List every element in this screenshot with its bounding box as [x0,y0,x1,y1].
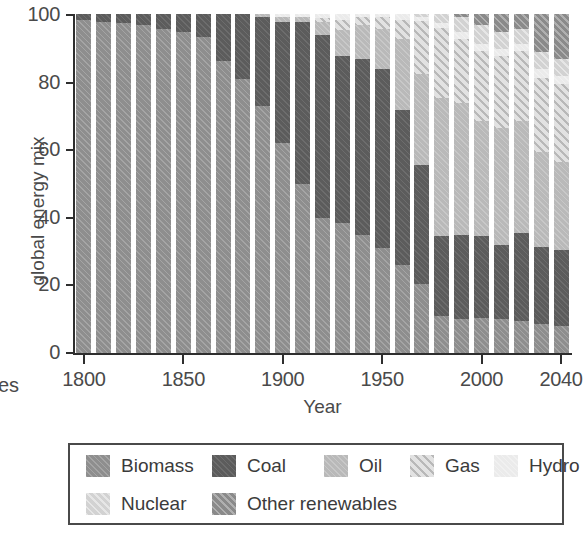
legend-swatch-icon [86,455,110,477]
bar-segment [454,16,469,32]
stacked-bar [116,15,131,353]
bar-segment [255,16,270,106]
bar-segment [554,325,569,353]
y-tick-label: 100 [14,4,60,24]
bar-segment [514,28,529,44]
legend-label: Coal [247,455,286,477]
bar-segment [474,317,489,353]
stacked-bar [414,15,429,353]
bar-segment [355,16,370,25]
bar-segment [275,14,290,16]
bar-segment [395,38,410,110]
stacked-bar [156,15,171,353]
bar-segment [375,28,390,69]
legend-item[interactable]: Gas [410,449,480,483]
plot-area [74,15,571,353]
bar-segment [534,68,549,77]
page-edge-text-fragment: es [0,374,19,397]
stacked-bar [315,15,330,353]
stacked-bar [554,15,569,353]
legend-item[interactable]: Other renewables [212,487,397,521]
bar-segment [295,21,310,184]
stacked-bar [136,15,151,353]
bar-segment [534,77,549,152]
bar-segment [116,23,131,353]
stacked-bar [235,15,250,353]
bar-segment [335,30,350,56]
bar-segment [514,14,529,28]
bar-segment [76,14,91,20]
bar-segment [414,284,429,353]
legend-swatch-icon [212,493,236,515]
stacked-bar [534,15,549,353]
bar-segment [355,58,370,234]
bar-segment [434,235,449,316]
bar-segment [474,25,489,44]
x-tick-label: 1800 [49,368,119,390]
legend-item[interactable]: Oil [324,449,382,483]
bar-segment [295,183,310,353]
y-tick-mark [66,217,73,219]
stacked-bar [176,15,191,353]
bar-segment [395,14,410,20]
bar-segment [474,14,489,25]
bar-segment [176,31,191,353]
x-tick-mark [282,355,284,364]
stacked-bar [355,15,370,353]
bar-segment [534,14,549,52]
bar-segment [235,14,250,79]
bar-segment [375,69,390,249]
y-tick-label: 60 [14,139,60,159]
legend-swatch-icon [494,455,518,477]
bar-segment [136,14,151,25]
bar-segment [534,52,549,70]
x-tick-label: 1900 [248,368,318,390]
legend-swatch-icon [86,493,110,515]
bar-segment [414,21,429,75]
legend-label: Gas [445,455,480,477]
bar-segment [315,217,330,353]
bar-segment [534,151,549,246]
bar-segment [454,31,469,38]
x-tick-label: 1950 [347,368,417,390]
stacked-bar [295,15,310,353]
bar-segment [514,50,529,122]
bar-segment [454,14,469,16]
bar-segment [395,109,410,265]
bar-segment [335,14,350,20]
legend-label: Oil [359,455,382,477]
bar-segment [196,14,211,37]
bar-segment [355,25,370,59]
bar-segment [275,143,290,353]
bar-segment [196,36,211,353]
x-tick-label: 1850 [148,368,218,390]
legend-swatch-icon [212,455,236,477]
x-tick-mark [560,355,562,364]
legend-item[interactable]: Coal [212,449,286,483]
bar-segment [375,14,390,16]
bar-segment [554,249,569,326]
y-tick-label: 40 [14,207,60,227]
bar-segment [414,74,429,165]
legend-item[interactable]: Nuclear [86,487,186,521]
bar-segment [414,14,429,16]
bar-segment [534,246,549,324]
legend-swatch-icon [324,455,348,477]
bar-segment [235,79,250,353]
legend-item[interactable]: Hydro [494,449,580,483]
bar-segment [156,14,171,28]
y-tick-label: 0 [14,342,60,362]
bar-segment [494,31,509,49]
stacked-bar [255,15,270,353]
legend-row-primary: BiomassCoalOilGasHydro [70,449,562,483]
x-tick-label: 2040 [526,368,587,390]
bar-segment [275,21,290,143]
bar-segment [315,35,330,218]
bar-segment [315,18,330,22]
bar-segment [414,16,429,21]
stacked-bar [275,15,290,353]
legend-item[interactable]: Biomass [86,449,194,483]
bar-segment [554,161,569,249]
bar-segment [454,319,469,353]
